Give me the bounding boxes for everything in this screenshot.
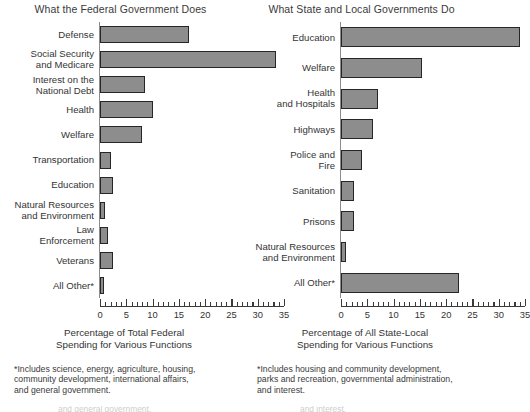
bar-series-state-local: EducationWelfareHealth and HospitalsHigh… bbox=[241, 22, 482, 298]
x-tick-minor bbox=[142, 302, 143, 306]
x-tick-minor bbox=[388, 302, 389, 306]
bleed-left: and general government. bbox=[58, 406, 151, 412]
x-tick-minor bbox=[116, 302, 117, 306]
bar-category-label: All Other* bbox=[294, 277, 335, 288]
x-tick-minor bbox=[147, 302, 148, 306]
x-tick-minor bbox=[404, 302, 405, 306]
x-tick-major bbox=[525, 299, 526, 306]
x-tick-minor bbox=[121, 302, 122, 306]
bar-category-label: Police and Fire bbox=[290, 149, 335, 171]
x-tick-major bbox=[394, 299, 395, 306]
bar bbox=[341, 211, 354, 231]
bar-category-label: Social Security and Medicare bbox=[31, 48, 94, 70]
bar-category-label: Natural Resources and Environment bbox=[15, 199, 94, 221]
x-tick-minor bbox=[504, 302, 505, 306]
panel-title-federal: What the Federal Government Does bbox=[0, 3, 241, 15]
x-tick-minor bbox=[467, 302, 468, 306]
x-tick-label: 0 bbox=[97, 309, 102, 320]
x-tick-minor bbox=[346, 302, 347, 306]
bar-category-label: Education bbox=[292, 32, 335, 43]
bar-category-label: Education bbox=[51, 179, 94, 190]
bar bbox=[341, 119, 373, 139]
x-tick-minor bbox=[488, 302, 489, 306]
bar-category-label: Sanitation bbox=[292, 185, 335, 196]
bar bbox=[100, 126, 142, 143]
x-tick-minor bbox=[221, 302, 222, 306]
bar bbox=[100, 26, 189, 43]
x-tick-minor bbox=[409, 302, 410, 306]
bar bbox=[341, 89, 378, 109]
bar-category-label: Transportation bbox=[32, 154, 94, 165]
x-axis-state-local: 05101520253035 bbox=[241, 296, 482, 326]
x-tick-minor bbox=[357, 302, 358, 306]
x-tick-minor bbox=[451, 302, 452, 306]
x-tick-major bbox=[153, 299, 154, 306]
x-tick-minor bbox=[436, 302, 437, 306]
x-tick-label: 5 bbox=[365, 309, 370, 320]
x-tick-major bbox=[499, 299, 500, 306]
bar bbox=[341, 273, 459, 293]
bar-category-label: Interest on the National Debt bbox=[33, 74, 94, 96]
x-axis-rule bbox=[341, 306, 525, 307]
x-tick-major bbox=[231, 299, 232, 306]
bar-category-label: Welfare bbox=[302, 62, 335, 73]
x-tick-minor bbox=[383, 302, 384, 306]
x-tick-label: 10 bbox=[388, 309, 398, 320]
x-tick-major bbox=[446, 299, 447, 306]
bar bbox=[100, 76, 145, 93]
bar bbox=[100, 152, 111, 169]
bar-category-label: Veterans bbox=[56, 255, 94, 266]
x-tick-minor bbox=[111, 302, 112, 306]
x-tick-major bbox=[420, 299, 421, 306]
bar bbox=[100, 227, 108, 244]
x-tick-minor bbox=[184, 302, 185, 306]
x-tick-label: 5 bbox=[124, 309, 129, 320]
bar-category-label: Defense bbox=[58, 29, 94, 40]
x-tick-minor bbox=[137, 302, 138, 306]
x-tick-minor bbox=[509, 302, 510, 306]
bar bbox=[100, 277, 104, 294]
x-tick-minor bbox=[373, 302, 374, 306]
x-tick-major bbox=[472, 299, 473, 306]
x-tick-label: 10 bbox=[147, 309, 157, 320]
x-tick-minor bbox=[105, 302, 106, 306]
plot-area-federal: DefenseSocial Security and MedicareInter… bbox=[0, 22, 241, 298]
x-tick-label: 20 bbox=[200, 309, 210, 320]
x-tick-minor bbox=[425, 302, 426, 306]
x-tick-minor bbox=[210, 302, 211, 306]
x-tick-minor bbox=[216, 302, 217, 306]
bar-category-label: Welfare bbox=[61, 129, 94, 140]
bar-category-label: Highways bbox=[293, 124, 335, 135]
x-tick-label: 30 bbox=[493, 309, 503, 320]
bar bbox=[341, 27, 520, 47]
x-tick-minor bbox=[457, 302, 458, 306]
panel-state-local: What State and Local Governments Do Educ… bbox=[241, 0, 482, 412]
footnote-state-local: *Includes housing and community developm… bbox=[257, 364, 471, 395]
x-tick-major bbox=[100, 299, 101, 306]
x-tick-minor bbox=[226, 302, 227, 306]
x-tick-minor bbox=[195, 302, 196, 306]
x-tick-major bbox=[341, 299, 342, 306]
bar bbox=[341, 150, 362, 170]
x-tick-major bbox=[179, 299, 180, 306]
x-tick-minor bbox=[399, 302, 400, 306]
x-tick-minor bbox=[352, 302, 353, 306]
x-tick-label: 0 bbox=[338, 309, 343, 320]
bar bbox=[341, 181, 354, 201]
footnote-federal: *Includes science, energy, agriculture, … bbox=[14, 364, 228, 395]
x-tick-minor bbox=[493, 302, 494, 306]
x-tick-major bbox=[126, 299, 127, 306]
page-bleed-text: and general government. and interest. bbox=[0, 406, 482, 412]
x-axis-caption-federal: Percentage of Total Federal Spending for… bbox=[14, 327, 234, 350]
x-tick-minor bbox=[462, 302, 463, 306]
bar bbox=[341, 58, 422, 78]
bar-category-label: Law Enforcement bbox=[40, 224, 94, 246]
bar-category-label: Natural Resources and Environment bbox=[256, 241, 335, 263]
x-tick-minor bbox=[430, 302, 431, 306]
x-tick-major bbox=[367, 299, 368, 306]
bar bbox=[100, 202, 105, 219]
x-tick-minor bbox=[158, 302, 159, 306]
bar bbox=[341, 242, 346, 262]
x-tick-minor bbox=[415, 302, 416, 306]
